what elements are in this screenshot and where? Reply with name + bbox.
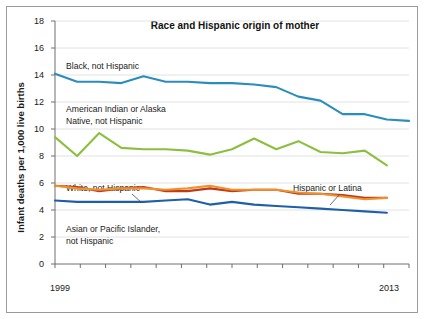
x-axis-ticks <box>55 264 409 268</box>
series-line-1 <box>55 133 387 165</box>
series-line-0 <box>55 74 409 121</box>
series-line-4 <box>55 199 387 213</box>
gridlines <box>55 21 409 237</box>
plot-area <box>0 0 424 319</box>
infant-mortality-line-chart: Infant deaths per 1,000 live births Race… <box>0 0 424 319</box>
series-lines <box>55 74 409 213</box>
y-axis-ticks <box>51 21 55 264</box>
